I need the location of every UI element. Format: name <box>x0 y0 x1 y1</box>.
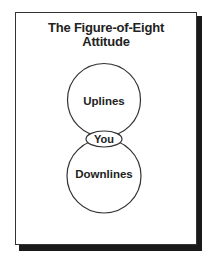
figure-eight-diagram: Uplines You Downlines <box>0 0 209 264</box>
downlines-label: Downlines <box>75 168 133 180</box>
you-label: You <box>94 133 114 145</box>
uplines-label: Uplines <box>83 95 125 107</box>
